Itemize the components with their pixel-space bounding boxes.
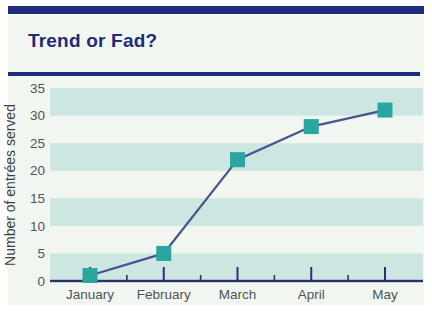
x-tick-label: May [372, 287, 398, 302]
y-tick-label: 10 [30, 219, 45, 234]
y-tick-label: 20 [30, 163, 45, 178]
data-point-marker [304, 119, 319, 134]
y-tick-label: 0 [37, 274, 45, 289]
y-axis-title: Number of entrées served [2, 104, 18, 266]
x-tick-label: March [219, 287, 257, 302]
y-tick-label: 30 [30, 108, 45, 123]
y-tick-label: 35 [30, 81, 45, 96]
x-tick-label: February [137, 287, 191, 302]
grid-band [50, 88, 423, 116]
grid-band [50, 198, 423, 226]
y-tick-label: 5 [37, 246, 45, 261]
figure: Trend or Fad? 05101520253035Number of en… [0, 0, 432, 316]
y-tick-label: 25 [30, 136, 45, 151]
data-point-marker [378, 103, 393, 118]
data-point-marker [230, 152, 245, 167]
line-chart: 05101520253035Number of entrées servedJa… [0, 0, 432, 316]
y-tick-label: 15 [30, 191, 45, 206]
x-axis-line [50, 280, 423, 282]
trend-line [90, 110, 385, 275]
x-tick-label: January [66, 287, 114, 302]
x-tick-label: April [298, 287, 325, 302]
data-point-marker [156, 246, 171, 261]
data-point-marker [83, 268, 98, 283]
